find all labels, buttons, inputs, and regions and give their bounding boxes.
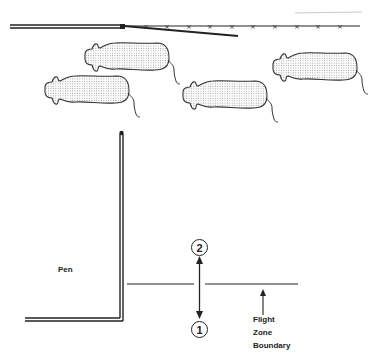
cow xyxy=(183,81,278,122)
svg-text:×: × xyxy=(272,23,278,31)
svg-text:×: × xyxy=(337,23,343,31)
flight-zone-boundary-label: Flight Zone Boundary xyxy=(253,313,290,352)
double-arrow xyxy=(196,256,203,319)
svg-text:×: × xyxy=(186,23,192,31)
position-2-marker: 2 xyxy=(191,239,208,256)
svg-text:×: × xyxy=(207,23,213,31)
svg-text:×: × xyxy=(315,23,321,31)
top-fence-rail xyxy=(10,24,125,29)
flight-zone-label-line1: Flight xyxy=(253,313,290,326)
flight-zone-label-line2: Zone xyxy=(253,326,290,339)
cattle-handling-diagram: × × × × × × × × × × xyxy=(0,0,376,363)
cow xyxy=(273,53,368,94)
svg-text:×: × xyxy=(294,23,300,31)
boundary-pointer-arrow xyxy=(260,289,266,315)
position-2-label: 2 xyxy=(196,242,202,254)
cow xyxy=(45,76,140,117)
svg-text:×: × xyxy=(250,23,256,31)
pen-fence xyxy=(25,131,124,321)
svg-text:×: × xyxy=(229,23,235,31)
pen-label: Pen xyxy=(58,263,73,276)
position-1-label: 1 xyxy=(196,324,202,336)
flight-zone-label-line3: Boundary xyxy=(253,339,290,352)
open-gate xyxy=(124,26,238,36)
position-1-marker: 1 xyxy=(191,321,208,338)
